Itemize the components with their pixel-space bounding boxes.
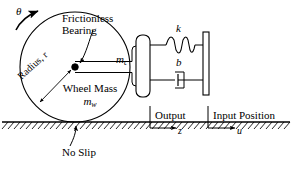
output-label: Output bbox=[155, 110, 186, 122]
cart-mass-symbol-base: m bbox=[116, 53, 124, 65]
frictionless-bearing-line1: Frictionless bbox=[62, 12, 113, 24]
output-symbol-label: z bbox=[178, 126, 182, 137]
no-slip-label: No Slip bbox=[62, 147, 96, 159]
spring-label: k bbox=[176, 23, 181, 35]
wheel-mass-symbol: mw bbox=[57, 96, 123, 109]
input-position-label: Input Position bbox=[213, 110, 275, 122]
wheel-mass-symbol-sub: w bbox=[91, 100, 96, 109]
mechanical-system-diagram: θ Frictionless Bearing Radius, r Wheel M… bbox=[0, 0, 292, 171]
frictionless-bearing-label: Frictionless Bearing bbox=[62, 13, 113, 36]
input-wall bbox=[203, 32, 209, 95]
no-slip-leader-arrow bbox=[70, 126, 76, 146]
cart-mass-symbol-sub: c bbox=[124, 58, 128, 67]
bearing-hub-dot bbox=[72, 64, 79, 71]
spring-coils bbox=[166, 37, 195, 53]
frictionless-bearing-line2: Bearing bbox=[62, 24, 97, 36]
wheel-mass-label: Wheel Mass bbox=[57, 83, 123, 95]
cart-mass-block bbox=[136, 35, 150, 97]
damper-label: b bbox=[176, 57, 182, 69]
diagram-canvas bbox=[0, 0, 292, 171]
cart-mass-symbol: mc bbox=[116, 54, 127, 67]
theta-label: θ bbox=[16, 6, 21, 18]
ground-hatching bbox=[2, 122, 290, 129]
input-symbol-label: u bbox=[237, 126, 242, 137]
